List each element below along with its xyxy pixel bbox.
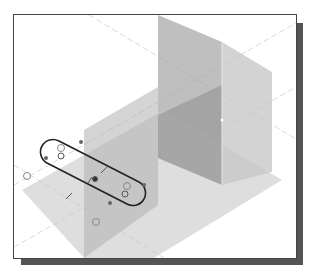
- frame-shadow-right: [296, 23, 303, 265]
- tangent-constraint-icon: [24, 173, 31, 180]
- center-point-icon: [93, 177, 98, 182]
- frame-shadow-bottom: [21, 258, 303, 265]
- origin-point: [221, 119, 224, 122]
- tangent-constraint-icon: [58, 145, 65, 152]
- scene-canvas[interactable]: [14, 15, 296, 258]
- graphics-viewport[interactable]: [13, 14, 297, 259]
